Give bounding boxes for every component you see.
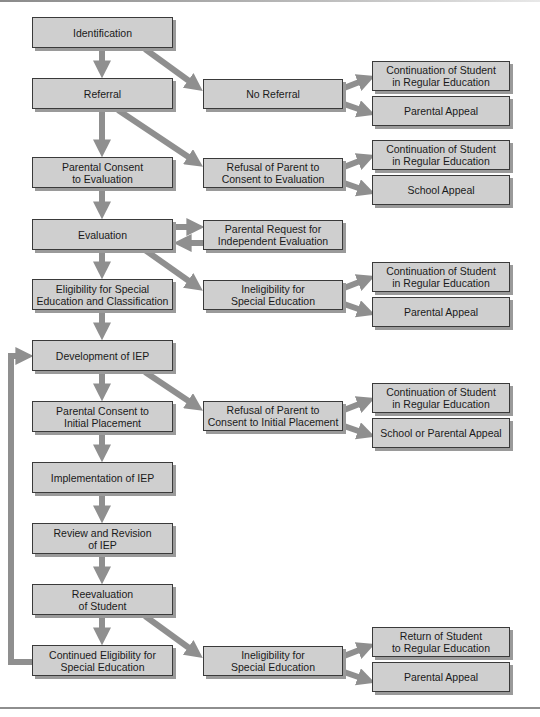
node-parental-appeal-2: Parental Appeal [372, 297, 510, 327]
node-eligibility-classification: Eligibility for Special Education and Cl… [32, 279, 173, 310]
node-school-or-parental-appeal: School or Parental Appeal [372, 418, 510, 448]
node-refusal-consent-initial-placement: Refusal of Parent to Consent to Initial … [203, 401, 343, 431]
node-review-revision-iep: Review and Revision of IEP [32, 523, 173, 554]
node-no-referral: No Referral [203, 79, 343, 109]
node-development-of-iep: Development of IEP [32, 340, 173, 371]
node-continuation-regular-education-1: Continuation of Student in Regular Educa… [372, 61, 510, 91]
node-implementation-of-iep: Implementation of IEP [32, 462, 173, 493]
node-parental-appeal-3: Parental Appeal [372, 662, 510, 692]
node-refusal-consent-evaluation: Refusal of Parent to Consent to Evaluati… [203, 158, 343, 188]
node-school-appeal: School Appeal [372, 175, 510, 205]
node-parental-appeal-1: Parental Appeal [372, 96, 510, 126]
node-return-to-regular-education: Return of Student to Regular Education [372, 627, 510, 657]
node-parental-consent-to-evaluation: Parental Consent to Evaluation [32, 157, 173, 188]
node-ineligibility-special-education-2: Ineligibility for Special Education [203, 646, 343, 676]
node-identification: Identification [32, 17, 173, 48]
node-evaluation: Evaluation [32, 219, 173, 250]
node-referral: Referral [32, 78, 173, 109]
node-reevaluation-of-student: Reevaluation of Student [32, 584, 173, 615]
node-continuation-regular-education-4: Continuation of Student in Regular Educa… [372, 383, 510, 413]
node-continuation-regular-education-3: Continuation of Student in Regular Educa… [372, 262, 510, 292]
node-parental-request-independent-evaluation: Parental Request for Independent Evaluat… [203, 220, 343, 250]
node-continuation-regular-education-2: Continuation of Student in Regular Educa… [372, 140, 510, 170]
bottom-rule [0, 707, 540, 709]
node-ineligibility-special-education-1: Ineligibility for Special Education [203, 280, 343, 310]
node-continued-eligibility: Continued Eligibility for Special Educat… [32, 645, 173, 676]
node-parental-consent-initial-placement: Parental Consent to Initial Placement [32, 401, 173, 432]
